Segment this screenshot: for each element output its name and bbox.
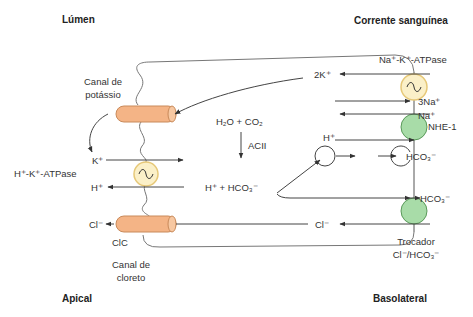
potassium-channel [116,106,176,122]
exchanger-label-2: Cl⁻/HCO₃⁻ [378,249,454,260]
hco3-carrier-1 [315,146,335,166]
reaction-top-label: H₂O + CO₂ [216,116,263,127]
cl-ion-apical-label: Cl⁻ [89,219,103,230]
hk-atpase-label: H⁺-K⁺-ATPase [14,168,77,179]
diagram-canvas [0,0,473,317]
na-ion-label: Na⁺ [418,110,435,121]
cl-channel-label-1: Canal de [108,259,154,270]
k-channel-label-1: Canal de [80,76,126,87]
exchanger-label-1: Trocador [378,236,454,247]
lumen-label: Lúmen [62,14,95,25]
nak-atpase-label: Na⁺-K⁺-ATPase [379,54,447,65]
h-ion-baso-label: H⁺ [323,132,335,143]
blood-label: Corrente sanguínea [354,15,448,26]
cl-ion-baso-label: Cl⁻ [315,219,329,230]
enzyme-label: ACII [248,140,266,151]
chloride-channel [116,216,176,232]
cl-channel-label-2: cloreto [108,272,154,283]
h-ion-apical-label: H⁺ [91,182,103,193]
clc-label: ClC [112,237,128,248]
three-na-label: 3Na⁺ [418,96,440,107]
two-k-label: 2K⁺ [314,69,331,80]
hco3-label-2: HCO₃⁻ [420,193,450,204]
apical-label: Apical [62,293,92,304]
reaction-bottom-label: H⁺ + HCO₃⁻ [205,182,258,193]
basolateral-label: Basolateral [373,293,427,304]
apical-membrane-wave-2 [142,183,150,217]
hco3-label-1: HCO₃⁻ [406,151,436,162]
cell-membrane-top [136,55,414,105]
nhe1-label: NHE-1 [428,121,457,132]
cell-membrane-bottom [143,232,414,247]
apical-membrane-wave-1 [140,122,147,162]
hk-atpase-pump [134,162,158,186]
k-ion-label: K⁺ [92,155,103,166]
k-channel-label-2: potássio [80,89,126,100]
